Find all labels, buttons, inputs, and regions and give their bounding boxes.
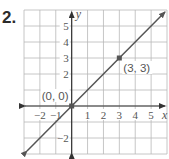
x-tick-label: 1 bbox=[85, 109, 91, 121]
y-tick-label: 3 bbox=[63, 52, 69, 64]
point-label: (0, 0) bbox=[42, 90, 69, 102]
x-tick-label: 2 bbox=[101, 109, 107, 121]
point-label: (3, 3) bbox=[123, 62, 150, 74]
y-tick-label: 4 bbox=[63, 36, 69, 48]
y-tick-label: −2 bbox=[57, 132, 69, 144]
point-marker bbox=[69, 104, 74, 109]
x-axis-label: x bbox=[161, 108, 168, 122]
y-axis-label: y bbox=[75, 7, 82, 21]
x-tick-label: 4 bbox=[132, 109, 138, 121]
x-tick-label: 5 bbox=[148, 109, 154, 121]
point-marker bbox=[117, 56, 122, 61]
plotted-line: (0, 0)(3, 3) bbox=[27, 12, 165, 151]
y-tick-label: 5 bbox=[63, 20, 69, 32]
x-tick-label: 3 bbox=[117, 109, 123, 121]
y-tick-label: 2 bbox=[63, 68, 69, 80]
coordinate-graph: xy −2−1123455432−2 (0, 0)(3, 3) bbox=[0, 0, 169, 159]
x-tick-label: −1 bbox=[50, 109, 62, 121]
x-tick-label: −2 bbox=[34, 109, 46, 121]
line-y-equals-x bbox=[27, 12, 165, 151]
